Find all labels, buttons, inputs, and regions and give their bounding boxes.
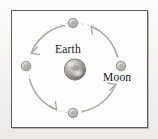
earth-label: Earth	[55, 44, 81, 56]
diagram-frame	[11, 10, 148, 128]
orbit-diagram-figure: Earth Moon	[0, 0, 158, 139]
moon-label: Moon	[103, 72, 131, 84]
